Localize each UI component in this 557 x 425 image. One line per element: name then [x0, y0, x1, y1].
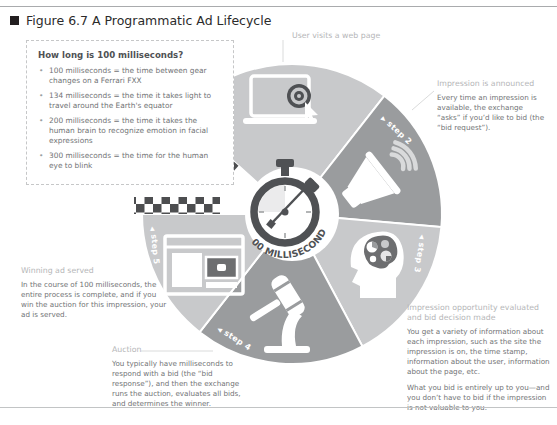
announce-heading: Impression is announced [437, 79, 547, 89]
bullet-item: 300 milliseconds = the time for the huma… [38, 151, 222, 171]
evaluate-body-2: What you bid is entirely up to you—and y… [407, 383, 553, 413]
annotation-serve: Winning ad served In the course of 100 m… [21, 266, 169, 326]
evaluate-heading: Impression opportunity evaluated and bid… [407, 303, 553, 323]
milliseconds-info-box: How long is 100 milliseconds? 100 millis… [26, 40, 234, 185]
annotation-visit: User visits a web page [292, 31, 422, 45]
annotation-announce: Impression is announced Every time an im… [437, 79, 547, 139]
annotation-auction: Auction You typically have milliseconds … [112, 345, 254, 415]
serve-body: In the course of 100 milliseconds, the e… [21, 280, 169, 320]
auction-heading: Auction [112, 345, 254, 355]
leader-line-announce [412, 91, 434, 110]
bullet-item: 100 milliseconds = the time between gear… [38, 66, 222, 86]
auction-body: You typically have milliseconds to respo… [112, 359, 254, 409]
figure-6-7: Figure 6.7 A Programmatic Ad Lifecycle [0, 0, 557, 425]
info-box-list: 100 milliseconds = the time between gear… [38, 66, 222, 171]
visit-heading: User visits a web page [292, 31, 422, 41]
bottom-rule [0, 407, 557, 408]
bullet-item: 200 milliseconds = the time it takes the… [38, 116, 222, 146]
bullet-item: 134 milliseconds = the time it takes lig… [38, 91, 222, 111]
evaluate-body-1: You get a variety of information about e… [407, 327, 553, 377]
annotation-evaluate: Impression opportunity evaluated and bid… [407, 303, 553, 419]
finish-line-checker [134, 197, 220, 214]
info-box-title: How long is 100 milliseconds? [38, 50, 222, 60]
announce-body: Every time an impression is available, t… [437, 93, 547, 133]
serve-heading: Winning ad served [21, 266, 169, 276]
